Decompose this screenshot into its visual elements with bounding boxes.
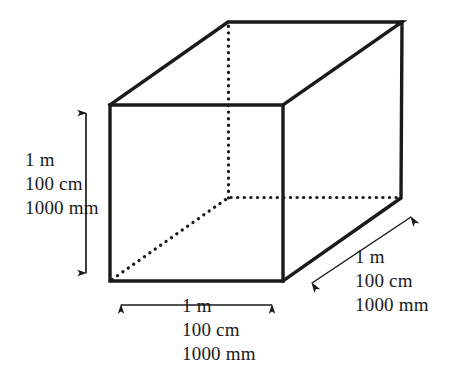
hidden-edges xyxy=(112,24,400,280)
depth-label-line-1: 1 m xyxy=(355,245,429,269)
width-dimension-label: 1 m 100 cm 1000 mm xyxy=(182,294,256,366)
hidden-edge-diagonal xyxy=(112,199,227,280)
depth-dimension-label: 1 m 100 cm 1000 mm xyxy=(355,245,429,317)
height-dimension-label: 1 m 100 cm 1000 mm xyxy=(25,148,99,220)
right-face-edges xyxy=(283,22,402,281)
cube-diagram: 1 m 100 cm 1000 mm 1 m 100 cm 1000 mm 1 … xyxy=(0,0,453,383)
height-label-line-3: 1000 mm xyxy=(25,196,99,220)
width-label-line-3: 1000 mm xyxy=(182,342,256,366)
width-label-line-2: 100 cm xyxy=(182,318,256,342)
height-label-line-1: 1 m xyxy=(25,148,99,172)
width-label-line-1: 1 m xyxy=(182,294,256,318)
front-face-edges xyxy=(110,105,283,281)
height-label-line-2: 100 cm xyxy=(25,172,99,196)
visible-edges xyxy=(110,22,402,281)
top-face-edges xyxy=(110,22,402,105)
depth-label-line-2: 100 cm xyxy=(355,269,429,293)
depth-label-line-3: 1000 mm xyxy=(355,293,429,317)
